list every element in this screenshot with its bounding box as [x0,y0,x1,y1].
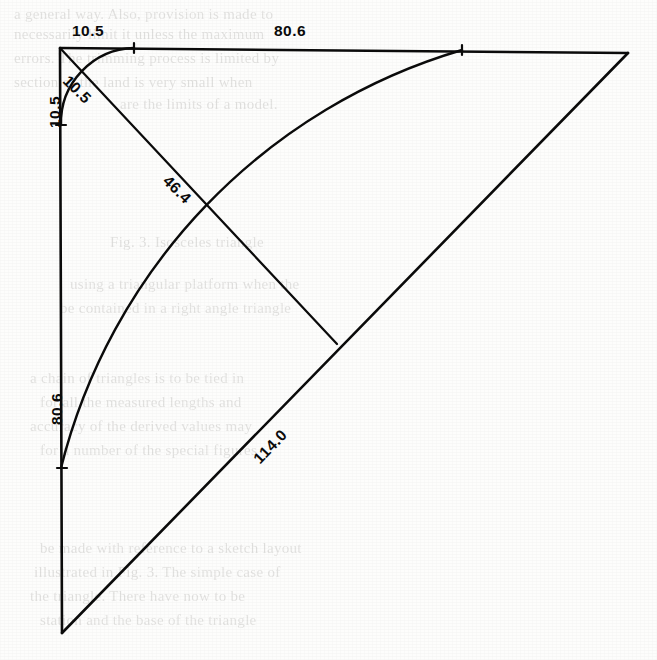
left-vertical-edge [60,48,62,633]
dimension-label-left-10-5: 10.5 [46,96,64,128]
dimension-label-top-left-10-5: 10.5 [72,22,104,40]
scanned-page: a general way. Also, provision is made t… [0,0,657,660]
top-horizontal-edge [60,48,628,53]
dimension-label-left-80-6: 80.6 [48,393,66,425]
inner-diagonal-edge [60,48,337,344]
geometric-diagram [0,0,657,660]
dimension-label-top-80-6: 80.6 [274,22,306,40]
